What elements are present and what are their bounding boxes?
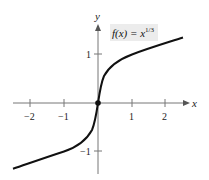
xtick-label-2: 2 <box>162 111 167 122</box>
origin-point <box>95 100 101 106</box>
xtick-label-1: 1 <box>129 111 134 122</box>
y-axis-arrow-icon <box>95 24 101 31</box>
xtick-label-neg1: −1 <box>58 111 69 122</box>
xtick-label-neg2: −2 <box>24 111 35 122</box>
function-exponent: 1/3 <box>145 26 154 34</box>
ytick-label-1: 1 <box>86 49 91 60</box>
x-axis-label: x <box>191 97 197 109</box>
y-axis-label: y <box>94 10 100 22</box>
cube-root-chart: −2 −1 1 2 1 −1 x y <box>0 0 209 180</box>
x-axis-arrow-icon <box>183 100 190 106</box>
ytick-label-neg1: −1 <box>80 146 91 157</box>
function-name: f(x) = <box>112 27 140 39</box>
function-label: f(x) = x1/3 <box>112 26 154 39</box>
